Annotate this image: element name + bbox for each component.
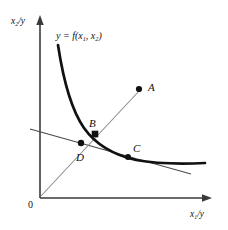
origin-label: 0 xyxy=(28,200,33,210)
expansion-ray-line xyxy=(41,90,140,196)
point-marker-D xyxy=(78,140,84,146)
x-axis xyxy=(40,194,212,201)
y-axis xyxy=(36,15,43,198)
curve-label-mid: , x xyxy=(86,30,95,41)
diagram-svg xyxy=(0,0,228,230)
curve-label-suffix: ) xyxy=(98,30,101,41)
figure-canvas: x2/y x1/y 0 y = f(x1, x2) A B C D xyxy=(0,0,228,230)
point-marker-B xyxy=(92,131,99,138)
curve-function-label: y = f(x1, x2) xyxy=(56,31,102,42)
x-axis-label: x1/y xyxy=(190,210,204,221)
y-axis-label-tail: /y xyxy=(18,16,25,26)
curve-label-prefix: y = f(x xyxy=(56,30,83,41)
y-axis-label: x2/y xyxy=(11,17,25,28)
point-label-A: A xyxy=(148,82,155,93)
point-label-C: C xyxy=(133,143,140,154)
x-axis-label-tail: /y xyxy=(197,209,204,219)
point-label-B: B xyxy=(89,118,96,129)
point-marker-A xyxy=(136,86,142,92)
point-marker-C xyxy=(125,154,131,160)
point-label-D: D xyxy=(76,152,84,163)
